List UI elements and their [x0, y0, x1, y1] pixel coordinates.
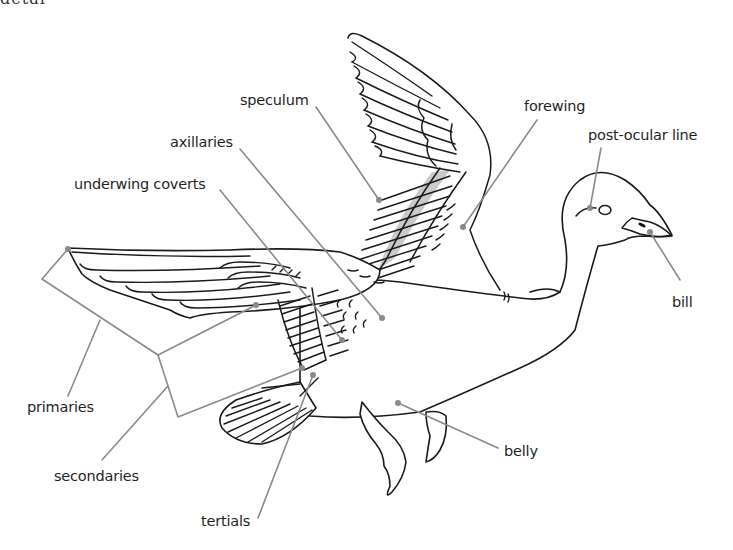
leader-bill	[650, 232, 680, 280]
leader-secondaries	[102, 386, 168, 460]
label-post-ocular-line: post-ocular line	[588, 128, 697, 143]
raised-wing	[348, 33, 500, 290]
leader-primaries	[68, 320, 100, 396]
label-secondaries: secondaries	[54, 469, 139, 484]
leader-belly	[398, 403, 498, 448]
raised-wing-primaries	[350, 42, 460, 172]
label-belly: belly	[504, 444, 538, 459]
leader-speculum	[316, 107, 379, 200]
label-primaries: primaries	[27, 400, 94, 415]
right-foot	[426, 412, 446, 463]
legs	[360, 402, 446, 495]
label-forewing: forewing	[524, 99, 585, 114]
label-tertials: tertials	[201, 514, 250, 529]
leader-forewing	[463, 120, 537, 227]
label-speculum: speculum	[240, 93, 309, 108]
label-underwing-coverts: underwing coverts	[74, 177, 206, 192]
label-bill: bill	[672, 295, 693, 310]
label-axillaries: axillaries	[170, 135, 233, 150]
